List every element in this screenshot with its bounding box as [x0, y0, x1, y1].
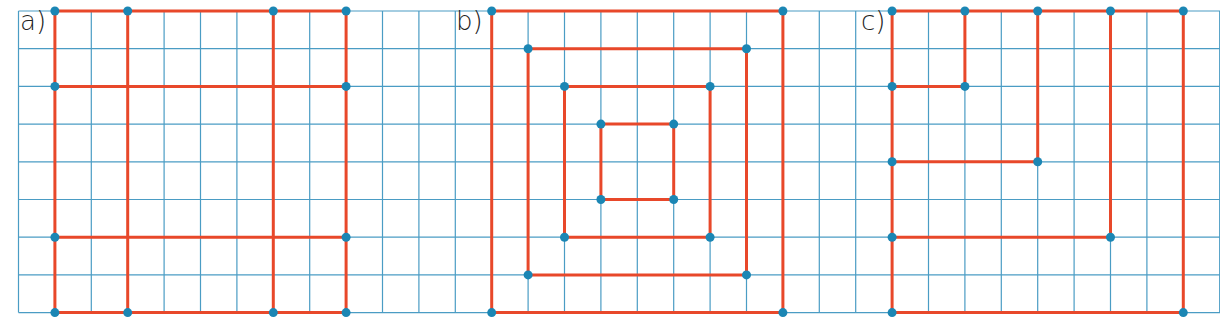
point — [487, 308, 496, 317]
point — [706, 82, 715, 91]
point — [524, 270, 533, 279]
point — [888, 233, 897, 242]
point — [50, 308, 59, 317]
point — [50, 82, 59, 91]
point — [706, 233, 715, 242]
point — [778, 308, 787, 317]
figure-c-label: c) — [861, 6, 885, 36]
point — [1033, 7, 1042, 16]
point — [742, 44, 751, 53]
point — [1106, 7, 1115, 16]
point — [50, 7, 59, 16]
point — [560, 82, 569, 91]
point — [778, 7, 787, 16]
figure-b-label: b) — [456, 6, 483, 36]
point — [888, 308, 897, 317]
point — [123, 7, 132, 16]
point — [524, 44, 533, 53]
point — [888, 82, 897, 91]
point — [560, 233, 569, 242]
point — [669, 195, 678, 204]
point — [1179, 7, 1188, 16]
point — [50, 233, 59, 242]
point — [487, 7, 496, 16]
grid-canvas — [0, 0, 1220, 324]
point — [742, 270, 751, 279]
point — [342, 7, 351, 16]
point — [1033, 157, 1042, 166]
point — [596, 195, 605, 204]
point — [669, 120, 678, 129]
point — [960, 82, 969, 91]
point — [1106, 233, 1115, 242]
point — [123, 308, 132, 317]
point — [596, 120, 605, 129]
point — [888, 157, 897, 166]
point — [1179, 308, 1188, 317]
point — [342, 233, 351, 242]
point — [342, 308, 351, 317]
point — [342, 82, 351, 91]
point — [269, 308, 278, 317]
point — [888, 7, 897, 16]
point — [269, 7, 278, 16]
point — [960, 7, 969, 16]
figure-a-label: a) — [20, 6, 46, 36]
